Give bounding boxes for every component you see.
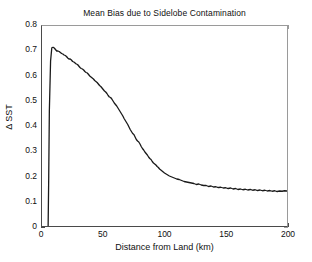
y-tick-label: 0.1 xyxy=(25,197,37,206)
y-tick-mark xyxy=(41,227,45,228)
x-tick-mark-top xyxy=(288,25,289,29)
x-tick-label: 50 xyxy=(98,230,107,239)
chart-title: Mean Bias due to Sidelobe Contamination xyxy=(41,8,288,19)
mean-bias-curve xyxy=(48,47,287,226)
chart-figure: Mean Bias due to Sidelobe Contamination … xyxy=(0,0,312,262)
x-tick-label: 100 xyxy=(157,230,171,239)
y-axis-label: Δ SST xyxy=(4,87,14,147)
x-tick-label: 200 xyxy=(281,230,295,239)
x-tick-mark xyxy=(288,223,289,227)
y-tick-label: 0.2 xyxy=(25,172,37,181)
y-tick-label: 0 xyxy=(32,222,37,231)
y-tick-label: 0.8 xyxy=(25,20,37,29)
plot-area xyxy=(41,25,288,227)
x-tick-label: 150 xyxy=(219,230,233,239)
y-tick-label: 0.4 xyxy=(25,121,37,130)
x-tick-label: 0 xyxy=(39,230,44,239)
y-tick-label: 0.7 xyxy=(25,45,37,54)
x-axis-label: Distance from Land (km) xyxy=(41,242,288,253)
y-tick-label: 0.6 xyxy=(25,71,37,80)
y-tick-label: 0.3 xyxy=(25,146,37,155)
y-tick-label: 0.5 xyxy=(25,96,37,105)
data-line-series xyxy=(42,26,287,226)
y-tick-mark-right xyxy=(284,227,288,228)
